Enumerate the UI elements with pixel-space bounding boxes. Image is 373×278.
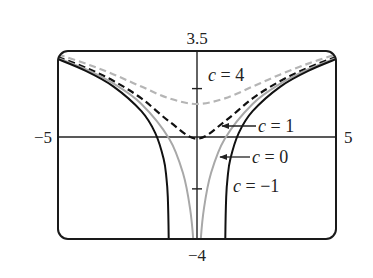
annotation-label: c = 4 [208,65,244,85]
graph-figure: 3.5 −4 −5 5 c = 4c = 1c = 0c = −1 [0,0,373,278]
annotation-label: c = −1 [233,176,279,196]
y-max-label: 3.5 [186,29,207,48]
annotation-label: c = 1 [258,116,294,136]
curve-annotations: c = 4c = 1c = 0c = −1 [208,65,294,196]
y-min-label: −4 [188,246,207,265]
curve-c-1 [58,59,169,249]
x-max-label: 5 [344,128,353,147]
curve-c-0 [58,58,193,249]
annotation-label: c = 0 [252,147,288,167]
x-min-label: −5 [34,128,52,147]
